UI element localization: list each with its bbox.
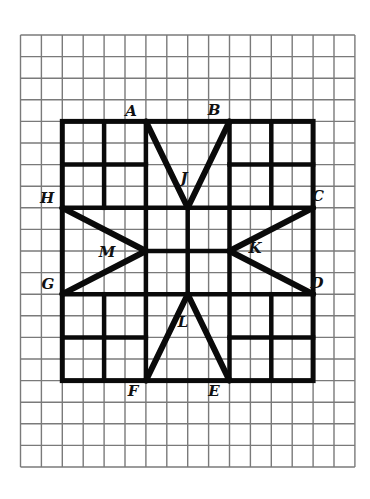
label-m: M xyxy=(99,245,116,260)
label-c: C xyxy=(312,189,324,204)
label-b: B xyxy=(208,103,221,118)
grid-figure: A B C D E F G H J K L M xyxy=(0,0,370,499)
label-e: E xyxy=(208,384,219,399)
label-l: L xyxy=(178,315,189,330)
label-g: G xyxy=(42,277,55,292)
label-a: A xyxy=(125,104,137,119)
label-j: J xyxy=(180,171,187,186)
label-k: K xyxy=(248,241,261,256)
label-f: F xyxy=(128,384,139,399)
grid-diagram-svg xyxy=(0,0,370,499)
label-d: D xyxy=(310,276,323,291)
label-h: H xyxy=(40,191,54,206)
